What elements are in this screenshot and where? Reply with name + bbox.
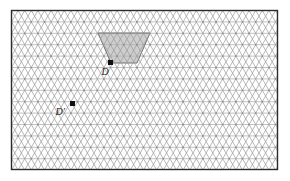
point-label-D-prime: D′ [56,107,65,117]
point-marker-D [108,60,113,65]
point-label-D: D [102,67,109,77]
lattice-diagram [0,0,290,181]
point-marker-Dprime [70,101,75,106]
figure-root: D D′ [0,0,290,181]
